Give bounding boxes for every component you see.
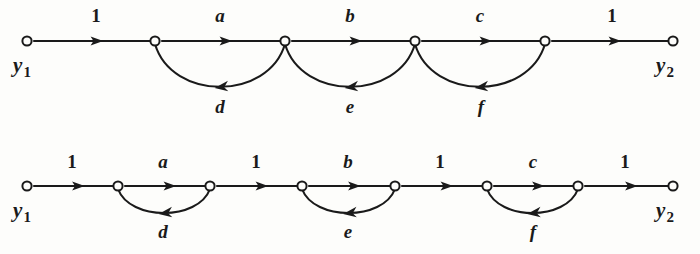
node-label-y1: y1 bbox=[10, 198, 31, 225]
branch-gain-label-1: 1 bbox=[435, 151, 445, 172]
node-circle-icon bbox=[410, 36, 419, 45]
node-label-y2: y2 bbox=[653, 198, 674, 225]
node-b8[interactable]: y2 bbox=[653, 181, 678, 225]
branch-gain-label-1: 1 bbox=[67, 151, 77, 172]
branch-gain-label-a: a bbox=[158, 151, 168, 172]
node-label-subscript: 2 bbox=[666, 209, 674, 225]
node-t6[interactable]: y2 bbox=[653, 36, 678, 80]
node-label-subscript: 1 bbox=[23, 64, 31, 80]
node-b1[interactable]: y1 bbox=[10, 181, 32, 225]
forward-edge-t4-t5[interactable]: c bbox=[422, 5, 540, 45]
signal-flow-graph-top: 1abc1defy1y2 bbox=[10, 5, 678, 117]
branch-gain-label-f: f bbox=[530, 221, 538, 242]
feedback-edge-b7-b6[interactable]: f bbox=[487, 189, 578, 242]
feedback-edge-b5-b4[interactable]: e bbox=[302, 189, 395, 242]
branch-gain-label-1: 1 bbox=[251, 151, 261, 172]
node-circle-icon bbox=[668, 36, 677, 45]
feedback-branch-curve bbox=[302, 189, 395, 213]
branch-gain-label-d: d bbox=[215, 96, 225, 117]
node-circle-icon bbox=[205, 181, 214, 190]
forward-edge-t1-t2[interactable]: 1 bbox=[34, 5, 150, 45]
forward-edge-t2-t3[interactable]: a bbox=[162, 5, 280, 45]
forward-edge-b7-b8[interactable]: 1 bbox=[585, 151, 668, 190]
node-b3[interactable] bbox=[205, 181, 214, 190]
feedback-edge-t4-t3[interactable]: e bbox=[285, 44, 415, 117]
branch-gain-label-c: c bbox=[476, 5, 485, 26]
node-t3[interactable] bbox=[280, 36, 289, 45]
node-label-subscript: 2 bbox=[666, 64, 674, 80]
node-t1[interactable]: y1 bbox=[10, 36, 32, 80]
signal-flow-graph-figure: 1abc1defy1y21a1b1c1defy1y2 bbox=[0, 0, 700, 254]
node-t2[interactable] bbox=[150, 36, 159, 45]
node-b6[interactable] bbox=[482, 181, 491, 190]
feedback-edge-t3-t2[interactable]: d bbox=[155, 44, 285, 117]
forward-edge-b3-b4[interactable]: 1 bbox=[217, 151, 297, 190]
feedback-branch-curve bbox=[415, 44, 545, 87]
node-circle-icon bbox=[22, 181, 31, 190]
node-circle-icon bbox=[280, 36, 289, 45]
node-b2[interactable] bbox=[113, 181, 122, 190]
feedback-branch-curve bbox=[118, 189, 210, 213]
node-circle-icon bbox=[113, 181, 122, 190]
branch-gain-label-d: d bbox=[158, 221, 168, 242]
feedback-edge-b3-b2[interactable]: d bbox=[118, 189, 210, 242]
forward-edge-b2-b3[interactable]: a bbox=[125, 151, 205, 190]
forward-edge-t5-t6[interactable]: 1 bbox=[552, 5, 668, 45]
forward-edge-t3-t4[interactable]: b bbox=[292, 5, 410, 45]
node-circle-icon bbox=[482, 181, 491, 190]
branch-gain-label-c: c bbox=[529, 151, 538, 172]
forward-edge-b4-b5[interactable]: b bbox=[309, 151, 390, 190]
branch-gain-label-b: b bbox=[343, 151, 353, 172]
branch-gain-label-1: 1 bbox=[91, 5, 101, 26]
feedback-branch-curve bbox=[155, 44, 285, 87]
node-circle-icon bbox=[668, 181, 677, 190]
branch-gain-label-1: 1 bbox=[607, 5, 617, 26]
node-t5[interactable] bbox=[540, 36, 549, 45]
node-circle-icon bbox=[150, 36, 159, 45]
feedback-branch-curve bbox=[285, 44, 415, 87]
figure-canvas: 1abc1defy1y21a1b1c1defy1y2 bbox=[0, 0, 700, 254]
node-t4[interactable] bbox=[410, 36, 419, 45]
branch-gain-label-b: b bbox=[345, 5, 355, 26]
signal-flow-graph-bottom: 1a1b1c1defy1y2 bbox=[10, 151, 678, 242]
node-label-subscript: 1 bbox=[23, 209, 31, 225]
branch-gain-label-f: f bbox=[478, 96, 486, 117]
node-b5[interactable] bbox=[390, 181, 399, 190]
forward-edge-b6-b7[interactable]: c bbox=[494, 151, 573, 190]
feedback-branch-curve bbox=[487, 189, 578, 213]
node-b7[interactable] bbox=[573, 181, 582, 190]
forward-edge-b1-b2[interactable]: 1 bbox=[34, 151, 113, 190]
node-circle-icon bbox=[390, 181, 399, 190]
branch-gain-label-e: e bbox=[346, 96, 355, 117]
node-circle-icon bbox=[22, 36, 31, 45]
branch-gain-label-e: e bbox=[344, 221, 353, 242]
node-circle-icon bbox=[573, 181, 582, 190]
node-b4[interactable] bbox=[297, 181, 306, 190]
forward-edge-b5-b6[interactable]: 1 bbox=[402, 151, 482, 190]
branch-gain-label-1: 1 bbox=[620, 151, 630, 172]
node-label-y2: y2 bbox=[653, 53, 674, 80]
node-label-y1: y1 bbox=[10, 53, 31, 80]
feedback-edge-t5-t4[interactable]: f bbox=[415, 44, 545, 117]
branch-gain-label-a: a bbox=[215, 5, 225, 26]
node-circle-icon bbox=[540, 36, 549, 45]
node-circle-icon bbox=[297, 181, 306, 190]
